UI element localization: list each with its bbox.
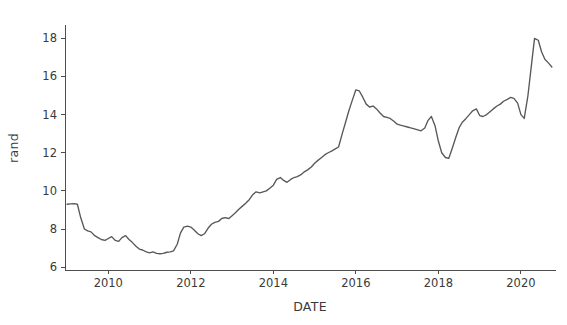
x-axis-ticks: 201020122014201620182020 [94,270,536,290]
y-tick-label: 6 [50,260,57,274]
x-tick-label: 2010 [94,276,123,290]
chart-figure: 681012141618 201020122014201620182020 DA… [0,0,567,325]
y-tick-label: 18 [42,31,57,45]
y-tick-label: 10 [42,184,57,198]
y-tick-label: 14 [42,108,57,122]
line-chart-svg: 681012141618 201020122014201620182020 DA… [0,0,567,325]
x-tick-label: 2014 [259,276,288,290]
y-tick-label: 8 [50,222,57,236]
y-tick-label: 16 [42,69,57,83]
y-tick-label: 12 [42,146,57,160]
x-tick-label: 2012 [176,276,205,290]
y-axis-title: rand [6,133,21,163]
x-tick-label: 2016 [341,276,370,290]
x-tick-label: 2020 [506,276,535,290]
y-axis-ticks: 681012141618 [42,31,65,274]
x-axis-title: DATE [293,299,327,314]
data-series-line [67,38,552,253]
x-tick-label: 2018 [424,276,453,290]
